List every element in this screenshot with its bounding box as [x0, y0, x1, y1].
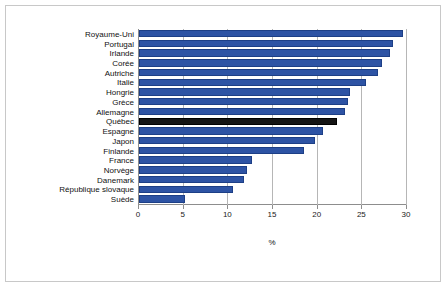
x-tick-label: 0 — [126, 210, 150, 220]
tick-mark — [272, 205, 273, 209]
bar-row: Autriche — [138, 68, 406, 78]
category-label: Japon — [112, 136, 134, 145]
bar[interactable] — [139, 166, 247, 173]
bar-row: Finlande — [138, 146, 406, 156]
bar[interactable] — [139, 98, 348, 105]
bar-row: Norvège — [138, 165, 406, 175]
bar[interactable] — [139, 79, 366, 86]
x-tick-label: 25 — [349, 210, 373, 220]
category-label: France — [109, 156, 134, 165]
category-label: Québec — [106, 117, 134, 126]
bar-row: Québec — [138, 117, 406, 127]
x-tick-label: 15 — [260, 210, 284, 220]
x-axis-title: % — [138, 238, 406, 247]
tick-mark — [406, 205, 407, 209]
tick-mark — [183, 205, 184, 209]
category-label: Allemagne — [96, 107, 134, 116]
category-label: Royaume-Uni — [85, 29, 134, 38]
bar-row: République slovaque — [138, 185, 406, 195]
tick-mark — [317, 205, 318, 209]
category-label: Italie — [117, 78, 134, 87]
gridline — [406, 29, 407, 205]
tick-mark — [227, 205, 228, 209]
bar-row: Hongrie — [138, 87, 406, 97]
tick-mark — [138, 205, 139, 209]
category-label: Finlande — [103, 146, 134, 155]
bar-row: Danemark — [138, 175, 406, 185]
bar[interactable] — [139, 69, 378, 76]
category-label: Grèce — [112, 97, 134, 106]
bar-row: Irlande — [138, 48, 406, 58]
bar[interactable] — [139, 127, 323, 134]
bar[interactable] — [139, 30, 403, 37]
bar-row: France — [138, 155, 406, 165]
bar[interactable] — [139, 137, 315, 144]
chart-frame: 051015202530 Royaume-UniPortugalIrlandeC… — [5, 5, 441, 282]
bar-row: Suède — [138, 194, 406, 204]
bar[interactable] — [139, 40, 393, 47]
x-tick-label: 10 — [215, 210, 239, 220]
category-label: Danemark — [97, 175, 134, 184]
bar-row: Portugal — [138, 39, 406, 49]
category-label: République slovaque — [59, 185, 134, 194]
category-label: Irlande — [110, 49, 134, 58]
category-label: Norvège — [104, 165, 134, 174]
bar-row: Espagne — [138, 126, 406, 136]
category-label: Autriche — [105, 68, 134, 77]
bar-row: Corée — [138, 58, 406, 68]
bar[interactable] — [139, 88, 350, 95]
bar[interactable] — [139, 195, 185, 202]
category-label: Espagne — [102, 127, 134, 136]
bar-row: Italie — [138, 78, 406, 88]
x-tick-label: 20 — [305, 210, 329, 220]
x-tick-label: 30 — [394, 210, 418, 220]
bar[interactable] — [139, 59, 382, 66]
x-tick-label: 5 — [171, 210, 195, 220]
bar-row: Royaume-Uni — [138, 29, 406, 39]
bar[interactable] — [139, 186, 233, 193]
bar-row: Allemagne — [138, 107, 406, 117]
bar[interactable] — [139, 147, 304, 154]
category-label: Suède — [111, 195, 134, 204]
category-label: Portugal — [104, 39, 134, 48]
plot-area: Royaume-UniPortugalIrlandeCoréeAutricheI… — [138, 29, 406, 204]
category-label: Hongrie — [106, 88, 134, 97]
bar[interactable] — [139, 108, 345, 115]
bar-row: Grèce — [138, 97, 406, 107]
tick-mark — [361, 205, 362, 209]
bar[interactable] — [139, 49, 390, 56]
bar[interactable] — [139, 156, 252, 163]
bar[interactable] — [139, 118, 337, 125]
category-label: Corée — [112, 59, 134, 68]
bar[interactable] — [139, 176, 244, 183]
bar-row: Japon — [138, 136, 406, 146]
